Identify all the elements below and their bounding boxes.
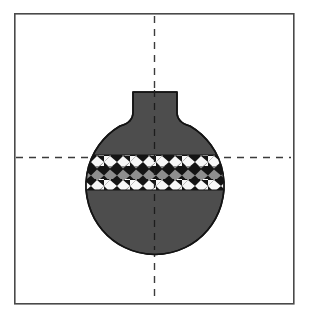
vessel-illustration [0, 0, 310, 317]
figure-root: Ceramic vessel profile drawing Archaeolo… [0, 0, 310, 317]
band-row-bottom [70, 179, 245, 190]
band-row-middle [70, 166, 245, 179]
